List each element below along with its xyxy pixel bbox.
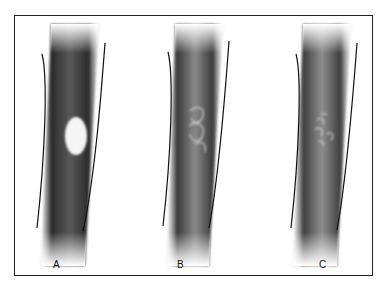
bone-diagram-b <box>135 16 255 277</box>
bone-diagram-a <box>15 16 135 277</box>
bone-diagram-c <box>255 16 375 277</box>
panel-b: B <box>135 16 255 277</box>
panel-label-b: B <box>177 259 184 270</box>
panel-c: C <box>255 16 375 277</box>
panel-label-c: C <box>319 259 326 270</box>
panel-label-a: A <box>53 259 60 270</box>
panel-a: A <box>15 16 135 277</box>
figure-frame: A <box>14 15 373 276</box>
